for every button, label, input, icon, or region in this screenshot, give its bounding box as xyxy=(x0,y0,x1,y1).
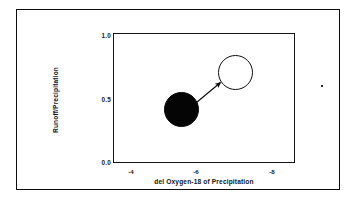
data-point-filled-circle xyxy=(164,92,199,127)
x-tick-label-3: -8 xyxy=(263,168,281,175)
x-axis-label: del Oxygen-18 of Precipitation xyxy=(113,178,295,185)
y-tick-label-1: 1.0 xyxy=(85,32,111,39)
figure-root: 1.0 0.5 0.0 -4 -6 -8 del Oxygen-18 of Pr… xyxy=(0,0,353,206)
y-tick-label-3: 0.0 xyxy=(85,159,111,166)
scan-artifact-speck xyxy=(321,85,323,87)
y-axis-label: Runoff/Precipitation xyxy=(52,60,59,140)
y-tick-label-2: 0.5 xyxy=(85,96,111,103)
x-tick-label-2: -6 xyxy=(187,168,205,175)
plot-area xyxy=(113,33,295,163)
x-tick-label-1: -4 xyxy=(122,168,140,175)
data-point-open-circle xyxy=(218,55,253,90)
